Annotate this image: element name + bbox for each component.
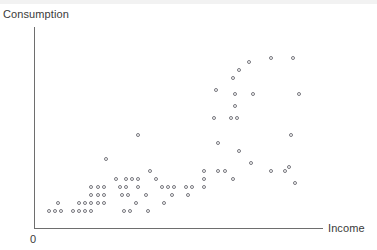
data-point bbox=[89, 193, 93, 197]
data-point bbox=[124, 177, 128, 181]
data-point bbox=[154, 177, 158, 181]
data-point bbox=[283, 169, 287, 173]
data-point bbox=[89, 201, 93, 205]
data-point bbox=[235, 116, 239, 120]
data-point bbox=[289, 133, 293, 137]
data-point bbox=[136, 177, 140, 181]
data-point bbox=[184, 185, 188, 189]
data-point bbox=[216, 141, 220, 145]
data-point bbox=[172, 185, 176, 189]
y-axis-title: Consumption bbox=[3, 8, 69, 20]
data-point bbox=[102, 185, 106, 189]
data-point bbox=[297, 92, 301, 96]
data-point bbox=[202, 169, 206, 173]
data-point bbox=[148, 169, 152, 173]
data-point bbox=[190, 185, 194, 189]
data-point bbox=[114, 177, 118, 181]
data-point bbox=[223, 169, 227, 173]
data-point bbox=[233, 92, 237, 96]
data-point bbox=[202, 185, 206, 189]
data-point bbox=[249, 161, 253, 165]
data-point bbox=[237, 68, 241, 72]
data-point bbox=[71, 209, 75, 213]
data-point bbox=[77, 201, 81, 205]
data-point bbox=[130, 177, 134, 181]
data-point bbox=[251, 92, 255, 96]
data-point bbox=[56, 201, 60, 205]
data-point bbox=[146, 209, 150, 213]
scatter-plot-figure: Consumption Income 0 bbox=[0, 0, 377, 250]
y-axis-line bbox=[34, 27, 35, 229]
x-axis-title: Income bbox=[328, 222, 365, 234]
data-point bbox=[102, 201, 106, 205]
data-point bbox=[118, 185, 122, 189]
data-point bbox=[89, 209, 93, 213]
data-point bbox=[233, 104, 237, 108]
origin-label: 0 bbox=[30, 233, 36, 245]
data-point bbox=[186, 193, 190, 197]
data-point bbox=[59, 209, 63, 213]
data-point bbox=[287, 165, 291, 169]
data-point bbox=[170, 193, 174, 197]
data-point bbox=[269, 169, 273, 173]
data-point bbox=[166, 185, 170, 189]
data-point bbox=[128, 209, 132, 213]
data-point bbox=[237, 149, 241, 153]
data-point bbox=[83, 201, 87, 205]
data-point bbox=[96, 193, 100, 197]
data-point bbox=[212, 116, 216, 120]
data-point bbox=[83, 209, 87, 213]
x-axis-line bbox=[34, 228, 323, 229]
data-point bbox=[53, 209, 57, 213]
data-point bbox=[120, 193, 124, 197]
data-point bbox=[104, 157, 108, 161]
plot-area: Consumption Income 0 bbox=[0, 0, 377, 250]
data-point bbox=[216, 169, 220, 173]
data-point bbox=[124, 185, 128, 189]
data-point bbox=[214, 88, 218, 92]
data-point bbox=[96, 185, 100, 189]
data-point bbox=[160, 185, 164, 189]
data-point bbox=[122, 209, 126, 213]
data-point bbox=[126, 193, 130, 197]
data-point bbox=[89, 185, 93, 189]
data-point bbox=[229, 116, 233, 120]
data-point bbox=[291, 56, 295, 60]
data-point bbox=[231, 177, 235, 181]
data-point bbox=[102, 193, 106, 197]
data-point bbox=[247, 60, 251, 64]
data-point bbox=[269, 56, 273, 60]
data-point bbox=[136, 133, 140, 137]
data-point bbox=[136, 185, 140, 189]
data-point bbox=[47, 209, 51, 213]
data-point bbox=[202, 177, 206, 181]
data-point bbox=[96, 201, 100, 205]
data-point bbox=[293, 181, 297, 185]
data-point bbox=[231, 76, 235, 80]
data-point bbox=[162, 201, 166, 205]
data-point bbox=[134, 201, 138, 205]
data-point bbox=[77, 209, 81, 213]
data-point bbox=[144, 193, 148, 197]
